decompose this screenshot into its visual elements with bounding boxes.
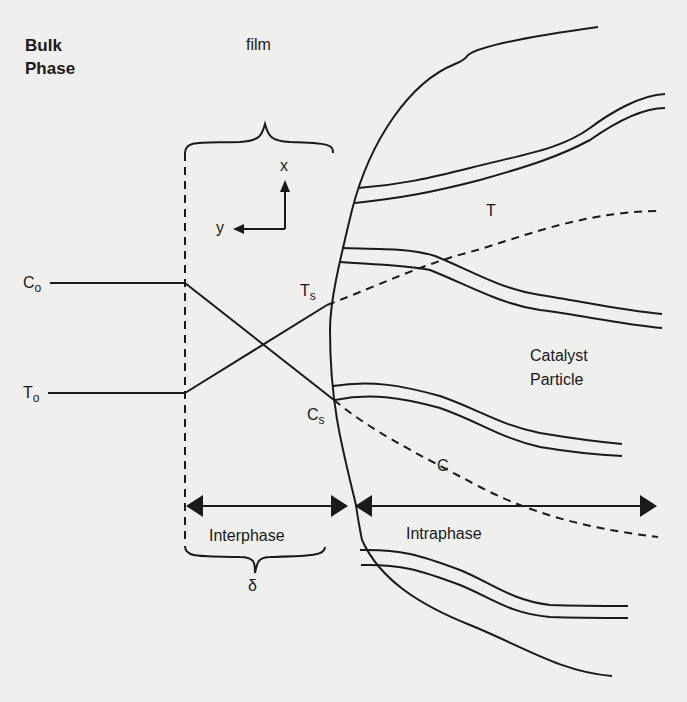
delta-brace	[185, 546, 325, 573]
particle-lower-boundary	[362, 540, 612, 676]
pore-1-upper	[358, 94, 665, 188]
pore-4-lower	[361, 565, 628, 618]
temperature-profile-label: T	[486, 203, 496, 219]
concentration-profile-dashed	[334, 400, 658, 537]
particle-boundary	[330, 27, 598, 540]
bulk-concentration-label: Co	[23, 275, 41, 294]
film-brace	[185, 124, 333, 153]
pore-2-upper	[342, 248, 662, 314]
bulk-phase-label-line2: Phase	[25, 60, 75, 77]
film-label: film	[246, 37, 271, 53]
x-axis-arrowhead	[280, 180, 290, 192]
pore-3-lower	[335, 397, 622, 456]
catalyst-particle-label-line2: Particle	[530, 372, 583, 388]
y-axis-label: y	[216, 220, 224, 236]
y-axis-arrowhead	[233, 224, 244, 234]
pore-4-upper	[360, 550, 628, 606]
intraphase-right-arrowhead	[640, 495, 657, 517]
bulk-temperature-label: To	[23, 385, 39, 404]
temperature-profile-dashed	[327, 211, 658, 305]
interphase-label: Interphase	[209, 528, 285, 544]
concentration-profile-label: C	[437, 458, 449, 474]
intraphase-label: Intraphase	[406, 526, 482, 542]
surface-temperature-label: Ts	[300, 283, 316, 302]
temperature-film-profile	[185, 305, 327, 393]
film-thickness-delta: δ	[248, 578, 257, 594]
bulk-phase-label-line1: Bulk	[25, 37, 62, 54]
x-axis-label: x	[280, 158, 288, 174]
pore-3-upper	[333, 383, 622, 444]
catalyst-particle-label-line1: Catalyst	[530, 348, 588, 364]
surface-concentration-label: Cs	[307, 407, 325, 426]
interphase-right-arrowhead	[331, 495, 348, 517]
pore-1-lower	[355, 108, 665, 203]
interphase-left-arrowhead	[186, 495, 203, 517]
pore-2-lower	[340, 262, 662, 328]
